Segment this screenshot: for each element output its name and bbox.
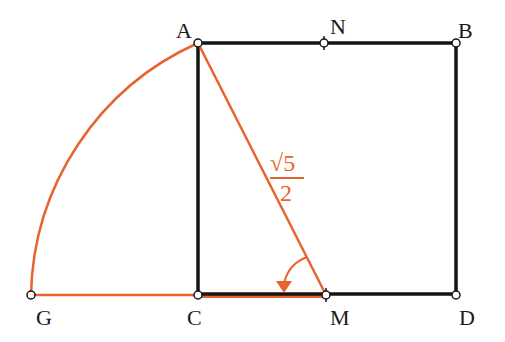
label-B: B	[458, 18, 473, 43]
label-A: A	[176, 18, 192, 43]
arc-AG	[31, 43, 198, 295]
point-M	[322, 291, 330, 299]
point-D	[452, 291, 460, 299]
point-C	[194, 291, 202, 299]
label-M: M	[330, 305, 350, 330]
arrowhead-icon	[276, 281, 292, 293]
diagram-canvas: A N B G C M D √5 2	[0, 0, 505, 342]
point-G	[27, 291, 35, 299]
label-N: N	[330, 14, 346, 39]
point-N	[320, 39, 328, 47]
label-G: G	[36, 305, 52, 330]
label-D: D	[459, 305, 475, 330]
point-A	[194, 39, 202, 47]
label-C: C	[187, 305, 202, 330]
golden-ratio-construction-diagram: A N B G C M D √5 2	[0, 0, 505, 342]
rotation-arrow-icon	[284, 257, 307, 284]
length-numerator: √5	[270, 150, 295, 176]
length-denominator: 2	[280, 180, 292, 206]
